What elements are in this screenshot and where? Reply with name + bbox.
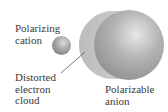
cloud-leader-line	[61, 52, 85, 73]
anion-sphere	[94, 10, 164, 80]
label-line: cation	[15, 35, 60, 47]
label-line: Polarizable	[105, 84, 154, 96]
label-line: Polarizing	[15, 23, 60, 35]
label-line: cloud	[15, 95, 56, 107]
label-distorted-electron-cloud: Distorted electron cloud	[15, 72, 56, 107]
label-polarizing-cation: Polarizing cation	[15, 23, 60, 46]
label-polarizable-anion: Polarizable anion	[105, 84, 154, 107]
label-line: Distorted	[15, 72, 56, 84]
label-line: anion	[105, 96, 154, 108]
